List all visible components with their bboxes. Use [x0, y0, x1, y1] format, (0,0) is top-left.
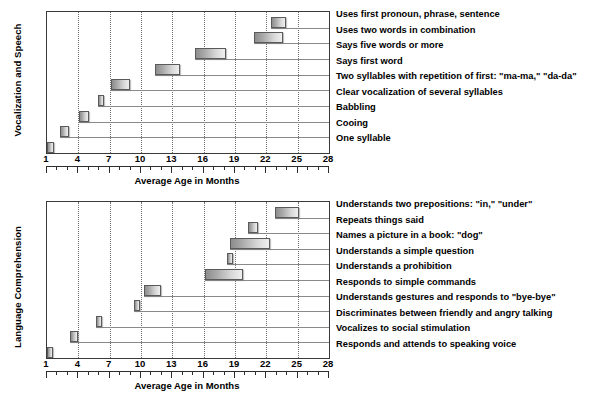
gridline-vertical — [235, 12, 236, 153]
tick-major — [77, 166, 78, 173]
tick-minor — [150, 166, 151, 170]
baseline-row — [155, 75, 329, 76]
baseline-row — [134, 311, 329, 312]
milestone-label: Two syllables with repetition of first: … — [336, 71, 577, 82]
tick-major — [171, 371, 172, 378]
tick-major — [109, 371, 110, 378]
milestone-label: One syllable — [336, 133, 391, 144]
gridline-vertical — [110, 202, 111, 358]
x-tick-label: 28 — [323, 153, 334, 164]
tick-major — [171, 166, 172, 173]
tick-major — [46, 371, 47, 378]
baseline-row — [98, 106, 329, 107]
gridline-vertical — [141, 202, 142, 358]
tick-minor — [286, 371, 287, 375]
tick-major — [234, 371, 235, 378]
tick-minor — [224, 166, 225, 170]
range-bar — [60, 126, 69, 137]
baseline-row — [230, 249, 329, 250]
milestone-label: Cooing — [336, 118, 368, 129]
y-axis-title-vocalization: Vocalization and Speech — [12, 5, 23, 155]
tick-major — [140, 371, 141, 378]
tick-major — [77, 371, 78, 378]
tick-minor — [213, 166, 214, 170]
range-bar — [275, 207, 299, 218]
x-tick-label: 25 — [291, 358, 302, 369]
x-axis-comprehension: 14710131619222528 — [46, 357, 328, 380]
milestone-label: Uses first pronoun, phrase, sentence — [336, 9, 500, 20]
tick-minor — [182, 166, 183, 170]
x-tick-label: 4 — [75, 358, 80, 369]
gridline-vertical — [78, 202, 79, 358]
baseline-row — [275, 218, 329, 219]
tick-major — [328, 166, 329, 173]
tick-major — [265, 371, 266, 378]
tick-minor — [307, 166, 308, 170]
milestone-label: Responds to simple commands — [336, 277, 476, 288]
x-axis-title-comprehension: Average Age in Months — [46, 380, 328, 391]
milestone-label: Repeats things said — [336, 215, 424, 226]
baseline-row — [111, 90, 329, 91]
tick-minor — [224, 371, 225, 375]
x-tick-labels-vocalization: 14710131619222528 — [46, 152, 328, 166]
baseline-row — [79, 122, 329, 123]
range-bar — [205, 269, 244, 280]
tick-minor — [244, 371, 245, 375]
x-tick-label: 22 — [260, 358, 271, 369]
tick-minor — [67, 371, 68, 375]
x-tick-label: 19 — [229, 153, 240, 164]
tick-major — [46, 166, 47, 173]
tick-minor — [276, 371, 277, 375]
milestone-label: Clear vocalization of several syllables — [336, 87, 503, 98]
tick-minor — [130, 371, 131, 375]
x-tick-label: 28 — [323, 358, 334, 369]
tick-minor — [182, 371, 183, 375]
tick-major — [109, 166, 110, 173]
x-tick-label: 13 — [166, 358, 177, 369]
milestone-label: Says five words or more — [336, 40, 443, 51]
gridline-vertical — [172, 12, 173, 153]
x-tick-label: 16 — [197, 358, 208, 369]
milestone-label: Discriminates between friendly and angry… — [336, 308, 552, 319]
tick-minor — [98, 166, 99, 170]
baseline-row — [205, 280, 329, 281]
baseline-row — [70, 342, 329, 343]
milestone-label: Says first word — [336, 56, 403, 67]
baseline-row — [60, 137, 329, 138]
baseline-row — [144, 296, 329, 297]
chart-language-comprehension: Language Comprehension 14710131619222528… — [0, 190, 611, 398]
x-tick-label: 22 — [260, 153, 271, 164]
tick-minor — [318, 371, 319, 375]
tick-minor — [307, 371, 308, 375]
x-tick-label: 10 — [135, 358, 146, 369]
tick-minor — [119, 371, 120, 375]
range-bar — [248, 222, 258, 233]
tick-minor — [56, 166, 57, 170]
tick-minor — [286, 166, 287, 170]
tick-minor — [98, 371, 99, 375]
y-axis-title-comprehension: Language Comprehension — [12, 212, 23, 362]
x-tick-label: 19 — [229, 358, 240, 369]
baseline-row — [195, 59, 329, 60]
tick-minor — [88, 166, 89, 170]
milestone-label: Responds and attends to speaking voice — [336, 339, 516, 350]
tick-major — [203, 371, 204, 378]
range-bar — [70, 331, 78, 342]
gridline-vertical — [172, 202, 173, 358]
tick-minor — [161, 166, 162, 170]
tick-major — [203, 166, 204, 173]
x-tick-label: 16 — [197, 153, 208, 164]
plot-area-comprehension — [46, 201, 330, 359]
x-tick-label: 25 — [291, 153, 302, 164]
tick-major — [328, 371, 329, 378]
tick-minor — [67, 166, 68, 170]
tick-minor — [192, 166, 193, 170]
x-ruler-vocalization — [46, 166, 328, 175]
tick-minor — [213, 371, 214, 375]
tick-minor — [318, 166, 319, 170]
tick-minor — [161, 371, 162, 375]
range-bar — [111, 79, 130, 90]
x-axis-title-vocalization: Average Age in Months — [46, 175, 328, 186]
tick-major — [234, 166, 235, 173]
x-tick-label: 1 — [43, 358, 48, 369]
